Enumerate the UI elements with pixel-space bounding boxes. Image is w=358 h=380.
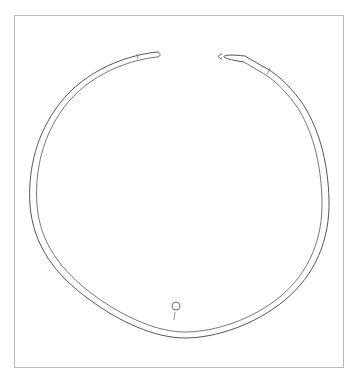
ring-drawing — [0, 0, 358, 380]
section-marker-leader — [174, 312, 175, 320]
section-marker-circle — [172, 302, 180, 310]
ring-right-tip — [219, 54, 222, 59]
ring-right-terminal — [224, 55, 245, 62]
ring-left-terminal — [157, 52, 160, 57]
ring-inner-edge — [37, 57, 322, 332]
ring-left-joint — [137, 54, 138, 59]
